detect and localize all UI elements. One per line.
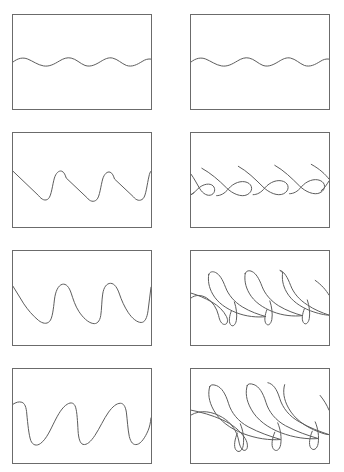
panel-7-plot — [13, 369, 151, 463]
panel-8-frame: Fully developed plunging jets — [190, 368, 330, 464]
panel-2-frame: Small-amplitude sinusoidal wave — [190, 14, 330, 110]
panel-grid: Small-amplitude sinusoidal wave Small-am… — [0, 0, 344, 472]
panel-2-plot — [191, 15, 329, 109]
panel-7-frame: Near-vertical wave fronts — [12, 368, 152, 464]
wave-curve-sinusoid-1 — [13, 58, 151, 66]
panel-4-frame: Interface begins to fold over — [190, 132, 330, 228]
panel-6-plot — [191, 251, 329, 345]
panel-4-plot — [191, 133, 329, 227]
panel-3-frame: Steepened sawtooth profile — [12, 132, 152, 228]
wave-curve-sawtooth-1 — [13, 171, 151, 201]
panel-6-frame: Plunging jets forming — [190, 250, 330, 346]
wave-curve-overturn-1 — [191, 164, 329, 195]
panel-8-plot — [191, 369, 329, 463]
panel-5-plot — [13, 251, 151, 345]
wave-curve-overturn-2 — [191, 270, 329, 326]
panel-3-plot — [13, 133, 151, 227]
wave-curve-sawtooth-2 — [13, 283, 151, 323]
panel-1-frame: Small-amplitude sinusoidal wave — [12, 14, 152, 110]
wave-curve-sinusoid-2 — [191, 58, 329, 66]
panel-1-plot — [13, 15, 151, 109]
figure-root: Wave steepening and overturning sequence… — [0, 0, 344, 472]
wave-curve-overturn-3 — [191, 383, 329, 452]
wave-curve-vertical-front — [13, 402, 151, 445]
panel-5-frame: Deepened troughs with rounded crests — [12, 250, 152, 346]
